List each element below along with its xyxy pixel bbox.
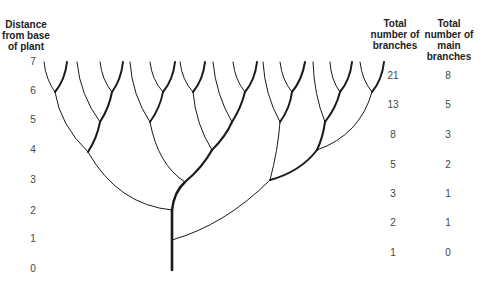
branch <box>280 62 292 92</box>
branch <box>270 122 280 180</box>
branch <box>212 122 232 150</box>
branch <box>360 62 372 92</box>
branch <box>172 182 185 210</box>
branch <box>150 122 185 182</box>
branch <box>280 92 292 122</box>
branch <box>270 150 317 180</box>
branch <box>150 62 163 92</box>
branch <box>193 62 205 92</box>
branch <box>330 62 340 92</box>
branch <box>130 62 150 122</box>
branch <box>245 62 257 92</box>
branch <box>232 92 245 122</box>
branch <box>88 152 172 210</box>
branch <box>340 62 352 92</box>
branch <box>100 92 112 122</box>
branch <box>112 62 123 92</box>
branch <box>55 62 67 92</box>
branch <box>44 62 55 92</box>
branch <box>180 62 193 92</box>
branch <box>292 62 305 92</box>
branch <box>263 62 280 122</box>
branch <box>100 62 112 92</box>
branch <box>77 62 100 122</box>
branch <box>313 62 325 122</box>
branch <box>185 150 212 182</box>
branch <box>163 62 175 92</box>
branch <box>88 122 100 152</box>
branch <box>372 62 384 92</box>
branch <box>213 62 232 122</box>
branch <box>233 62 245 92</box>
branch <box>150 92 163 122</box>
branching-tree-diagram <box>0 0 483 285</box>
branch <box>193 92 212 150</box>
branch <box>317 122 325 150</box>
branch <box>172 180 270 240</box>
branch <box>325 92 340 122</box>
branch <box>55 92 88 152</box>
